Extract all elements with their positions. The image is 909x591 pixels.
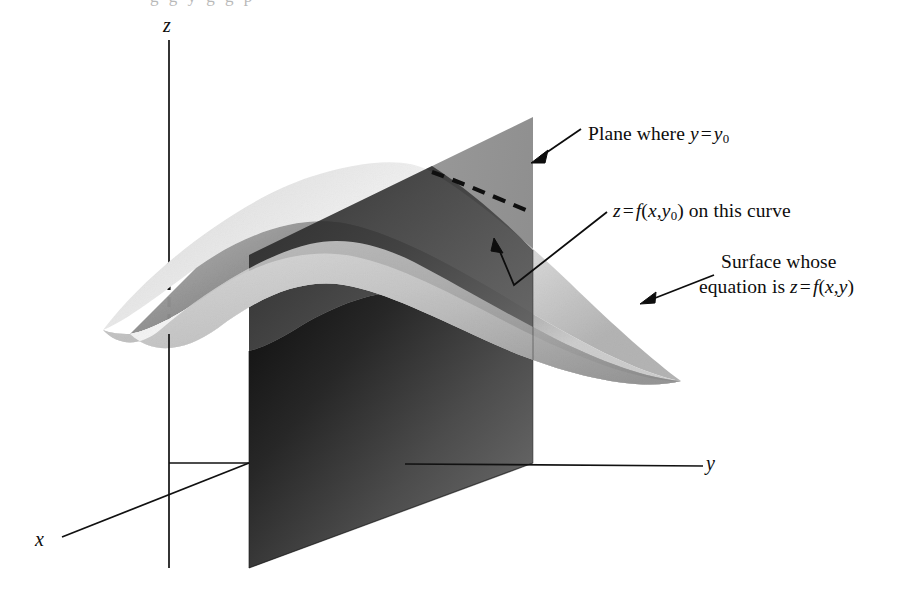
figure-canvas: Plane where y=y0 z=f(x,y0) on this curve… <box>0 0 909 591</box>
plane-label-subscript: 0 <box>723 132 730 146</box>
curve-label-operator: = <box>621 200 636 221</box>
plane-label-var-y: y <box>690 123 699 144</box>
arrowhead-surface-label <box>640 292 656 304</box>
surface-label-line1: Surface whose <box>721 251 837 272</box>
annotation-surface-label: Surface whose equation is z=f(x,y) <box>721 250 854 300</box>
axis-label-z: z <box>163 14 171 37</box>
page-bleed-top: g g y g g p <box>0 0 909 9</box>
plane-label-var-y0: y <box>714 123 723 144</box>
surface-label-operator: = <box>798 276 813 297</box>
surface-label-line2-lead: equation is <box>699 276 790 297</box>
arrowhead-plane-label <box>531 150 548 163</box>
axis-label-x: x <box>35 528 44 551</box>
surface-label-paren-close: ) <box>848 276 855 297</box>
surface-label-arg-x: x <box>825 276 834 297</box>
curve-label-paren-close: ) <box>677 200 684 221</box>
page-bleed-text: g g y g g p <box>150 0 255 6</box>
annotation-curve-label: z=f(x,y0) on this curve <box>613 199 791 224</box>
curve-label-arg-x: x <box>648 200 657 221</box>
plane-label-operator: = <box>699 123 714 144</box>
curve-label-paren-open: ( <box>641 200 648 221</box>
curve-label-tail: on this curve <box>684 200 791 221</box>
x-axis <box>62 463 249 537</box>
surface-label-arg-y: y <box>839 276 848 297</box>
annotation-plane-label: Plane where y=y0 <box>588 122 729 147</box>
curve-label-var-z: z <box>613 200 621 221</box>
surface-label-var-z: z <box>790 276 798 297</box>
axis-label-y: y <box>706 452 715 475</box>
plane-label-lead: Plane where <box>588 123 690 144</box>
surface-label-line2: equation is z=f(x,y) <box>699 275 854 300</box>
